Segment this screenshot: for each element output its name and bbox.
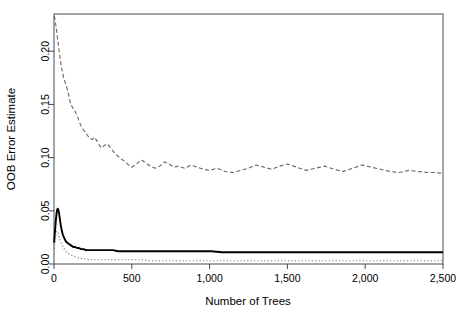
- x-axis-ticks: 05001,0001,5002,0002,500: [51, 264, 456, 284]
- series-line-class-error-lower: [54, 231, 443, 261]
- x-tick-label: 2,000: [352, 272, 378, 284]
- y-tick-label: 0.15: [39, 94, 51, 115]
- y-tick-label: 0.05: [39, 200, 51, 221]
- x-tick-label: 1,500: [274, 272, 300, 284]
- oob-error-chart: 0.000.050.100.150.20 05001,0001,5002,000…: [0, 0, 460, 321]
- y-tick-label: 0.10: [39, 147, 51, 168]
- plot-box: [54, 14, 443, 264]
- chart-canvas: 0.000.050.100.150.20 05001,0001,5002,000…: [0, 0, 460, 321]
- x-axis-title: Number of Trees: [205, 295, 291, 307]
- y-axis-title: OOB Error Estimate: [5, 88, 17, 190]
- data-series-group: [54, 16, 443, 261]
- series-line-class-error-upper: [54, 16, 443, 173]
- x-tick-label: 0: [51, 272, 57, 284]
- y-tick-label: 0.20: [39, 41, 51, 62]
- series-line-oob-overall-error: [54, 209, 443, 253]
- x-tick-label: 1,000: [196, 272, 222, 284]
- x-tick-label: 2,500: [430, 272, 456, 284]
- y-axis-ticks: 0.000.050.100.150.20: [39, 41, 54, 274]
- x-tick-label: 500: [123, 272, 141, 284]
- y-tick-label: 0.00: [39, 254, 51, 275]
